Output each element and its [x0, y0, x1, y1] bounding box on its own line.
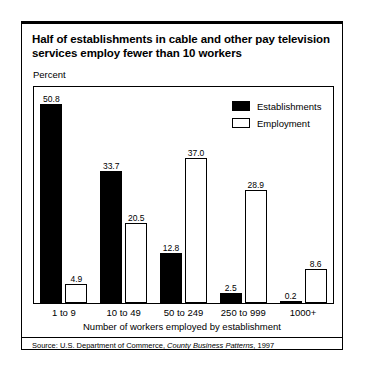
x-axis-title: Number of workers employed by establishm…: [22, 321, 342, 332]
bar-employment-1000+: 8.6: [305, 269, 327, 303]
bar-value-label: 50.8: [43, 94, 60, 104]
bar-establishments-1-to-9: 50.8: [40, 104, 62, 304]
bar-value-label: 37.0: [188, 148, 205, 158]
bar-group: 2.528.9: [213, 87, 273, 303]
bar-value-label: 28.9: [248, 180, 265, 190]
bar-group: 0.28.6: [273, 87, 333, 303]
bar-value-label: 12.8: [163, 243, 180, 253]
source-note: Source: U.S. Department of Commerce, Cou…: [32, 341, 274, 350]
bar-value-label: 8.6: [310, 259, 322, 269]
x-tick-label-10-to-49: 10 to 49: [94, 307, 154, 318]
source-suffix: , 1997: [253, 341, 274, 350]
footer-divider: [22, 337, 342, 338]
bar-value-label: 4.9: [70, 274, 82, 284]
bar-value-label: 20.5: [128, 213, 145, 223]
x-tick-label-250-to-999: 250 to 999: [213, 307, 273, 318]
x-tick-label-1-to-9: 1 to 9: [34, 307, 94, 318]
bar-group: 33.720.5: [94, 87, 154, 303]
bar-employment-10-to-49: 20.5: [125, 223, 147, 304]
bar-employment-250-to-999: 28.9: [245, 190, 267, 303]
plot-area: Establishments Employment 50.84.933.720.…: [33, 86, 334, 304]
x-tick-label-50-to-249: 50 to 249: [154, 307, 214, 318]
bar-establishments-50-to-249: 12.8: [160, 253, 182, 303]
page-title: Half of establishments in cable and othe…: [32, 32, 332, 60]
bar-value-label: 2.5: [225, 283, 237, 293]
bar-value-label: 33.7: [103, 161, 120, 171]
source-prefix: Source: U.S. Department of Commerce,: [32, 341, 167, 350]
bar-employment-1-to-9: 4.9: [65, 284, 87, 303]
bar-establishments-10-to-49: 33.7: [100, 171, 122, 303]
figure-panel: Half of establishments in cable and othe…: [21, 21, 343, 350]
bar-establishments-250-to-999: 2.5: [220, 293, 242, 303]
bar-group: 12.837.0: [154, 87, 214, 303]
bar-establishments-1000+: 0.2: [280, 301, 302, 303]
y-axis-unit-label: Percent: [33, 69, 66, 80]
bar-group: 50.84.9: [34, 87, 94, 303]
bar-employment-50-to-249: 37.0: [185, 158, 207, 303]
source-publication: County Business Patterns: [167, 341, 253, 350]
bar-groups: 50.84.933.720.512.837.02.528.90.28.6: [34, 87, 333, 303]
bar-value-label: 0.2: [285, 291, 297, 301]
x-tick-label-1000+: 1000+: [273, 307, 333, 318]
